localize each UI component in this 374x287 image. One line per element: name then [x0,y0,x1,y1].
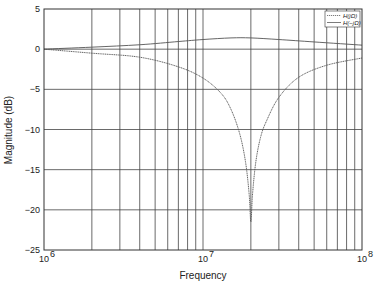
x-tick-exponent: 8 [368,249,373,259]
y-tick-label: −5 [30,84,40,94]
x-tick-exponent: 7 [209,249,214,259]
chart-background [0,0,374,287]
x-tick-exponent: 6 [50,249,55,259]
legend: H(jΩ) H(−jΩ) [325,11,361,27]
legend-label-2: H(−jΩ) [343,20,361,26]
y-axis-label: Magnitude (dB) [3,96,14,164]
y-tick-label: 5 [35,4,40,14]
y-tick-label: 0 [35,44,40,54]
legend-label-1: H(jΩ) [343,13,357,19]
y-tick-label: −20 [25,205,40,215]
y-tick-label: −10 [25,125,40,135]
y-tick-label: −25 [25,245,40,255]
y-tick-label: −15 [25,165,40,175]
x-axis-label: Frequency [179,270,226,281]
grid-lines [44,9,362,250]
x-tick-label: 10 [357,254,367,264]
x-tick-label: 10 [39,254,49,264]
magnitude-chart: 50−5−10−15−20−25 106107108 Frequency Mag… [0,0,374,287]
x-tick-label: 10 [198,254,208,264]
